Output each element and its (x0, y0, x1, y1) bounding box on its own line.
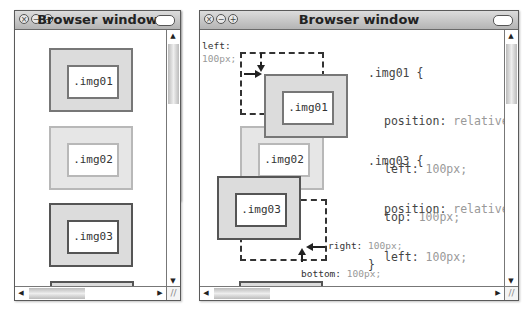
toolbar-toggle-button[interactable] (155, 15, 175, 26)
horizontal-scrollbar[interactable]: ◀ ▶ (15, 286, 166, 300)
page-content: .img01 .img02 .img03 (15, 30, 166, 286)
page-content: .img02 .img01 .img03 top: 100px; left: 1… (200, 30, 504, 286)
title-bar[interactable]: × − + Browser window (200, 11, 518, 30)
resize-grip-icon[interactable]: // (166, 286, 180, 300)
annotation-left: left: 100px; (202, 39, 236, 65)
image-box-img02: .img02 (49, 126, 133, 190)
box-label: .img02 (67, 143, 119, 177)
vertical-scrollbar[interactable]: ▲ ▼ (504, 30, 518, 286)
vertical-scroll-thumb[interactable] (506, 44, 517, 104)
box-label: .img02 (258, 143, 310, 177)
arrow-right-icon-head (255, 70, 262, 78)
box-label: .img03 (235, 193, 287, 227)
css-declaration: left: 100px; (368, 249, 504, 265)
box-label: .img01 (67, 65, 119, 99)
arrow-left-icon (313, 246, 325, 250)
arrow-up-icon-head (298, 248, 306, 255)
horizontal-scroll-thumb[interactable] (29, 288, 85, 299)
scroll-up-icon[interactable]: ▲ (505, 32, 517, 40)
browser-window-1: × − + Browser window .img01 .img02 .img0… (14, 10, 181, 301)
image-box-img01: .img01 (49, 48, 133, 112)
arrow-up-icon (301, 254, 305, 262)
horizontal-scroll-thumb[interactable] (214, 288, 270, 299)
scroll-right-icon[interactable]: ▶ (154, 289, 166, 297)
scroll-left-icon[interactable]: ◀ (15, 289, 27, 297)
image-box-img01: .img01 (264, 74, 348, 138)
horizontal-scrollbar[interactable]: ◀ ▶ (200, 286, 504, 300)
box-label: .img03 (67, 220, 119, 254)
css-selector: .img01 { (368, 65, 504, 81)
annotation-prop: bottom: (301, 268, 341, 279)
css-selector: .img03 { (368, 153, 504, 169)
resize-grip-icon[interactable]: // (504, 286, 518, 300)
box-label: .img01 (282, 91, 334, 125)
css-rule-img03: .img03 { position: relative; left: 100px… (368, 121, 504, 286)
vertical-scroll-thumb[interactable] (168, 44, 179, 104)
scroll-right-icon[interactable]: ▶ (492, 289, 504, 297)
css-declaration: position: relative; (368, 201, 504, 217)
scroll-up-icon[interactable]: ▲ (167, 32, 179, 40)
toolbar-toggle-button[interactable] (493, 15, 513, 26)
arrow-left-icon-head (306, 243, 313, 251)
scroll-left-icon[interactable]: ◀ (200, 289, 212, 297)
title-bar[interactable]: × − + Browser window (15, 11, 180, 30)
window-title: Browser window (200, 12, 518, 27)
annotation-value: 100px; (202, 52, 236, 65)
annotation-prop: right: (328, 240, 362, 251)
browser-window-2: × − + Browser window .img02 .img01 .img0… (199, 10, 519, 301)
vertical-scrollbar[interactable]: ▲ ▼ (166, 30, 180, 286)
annotation-prop: left: (202, 39, 236, 52)
scroll-down-icon[interactable]: ▼ (505, 277, 517, 285)
scroll-down-icon[interactable]: ▼ (167, 277, 179, 285)
image-box-img03: .img03 (217, 176, 301, 240)
image-box-img03: .img03 (49, 203, 133, 267)
